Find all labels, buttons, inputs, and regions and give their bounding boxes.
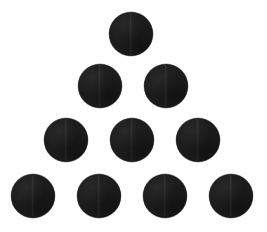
dot-r3-c1 xyxy=(44,118,88,162)
dot-r4-c4 xyxy=(209,174,253,218)
dot-r2-c2 xyxy=(144,64,188,108)
dot-r4-c1 xyxy=(11,174,55,218)
dot-r3-c3 xyxy=(176,118,220,162)
dot-r3-c2 xyxy=(110,118,154,162)
dot-r4-c2 xyxy=(77,174,121,218)
dot-r4-c3 xyxy=(143,174,187,218)
dot-r1-c1 xyxy=(109,12,153,56)
dot-pattern-figure xyxy=(0,0,267,232)
dot-r2-c1 xyxy=(78,64,122,108)
